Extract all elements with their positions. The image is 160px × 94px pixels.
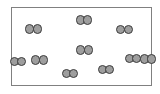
atom-circle bbox=[39, 55, 48, 64]
atom-circle bbox=[105, 65, 114, 74]
atom-circle bbox=[69, 69, 78, 78]
atom-circle bbox=[124, 25, 133, 34]
atom-circle bbox=[33, 24, 42, 33]
atom-circle bbox=[83, 15, 92, 24]
diagram-canvas bbox=[0, 0, 160, 94]
atom-circle bbox=[17, 57, 26, 66]
atom-circle bbox=[84, 45, 93, 54]
atom-circle bbox=[147, 54, 156, 63]
